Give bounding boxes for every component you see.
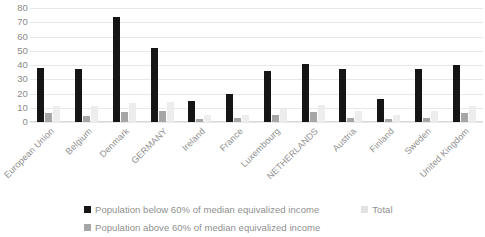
x-axis-label: France bbox=[217, 126, 244, 153]
x-axis-label: Austria bbox=[331, 126, 358, 153]
legend-swatch-light-icon bbox=[361, 206, 368, 213]
legend-swatch-dark-icon bbox=[84, 206, 91, 213]
x-label-slot: European Union bbox=[30, 124, 68, 196]
bar[interactable] bbox=[167, 102, 174, 122]
x-label-slot: GERMANY bbox=[143, 124, 181, 196]
bar[interactable] bbox=[461, 113, 468, 122]
x-axis-label: European Union bbox=[2, 126, 56, 180]
y-axis-tick-60: 60 bbox=[17, 32, 28, 42]
bar[interactable] bbox=[431, 111, 438, 122]
bar-group bbox=[181, 8, 219, 122]
bar[interactable] bbox=[310, 112, 317, 122]
bar-group bbox=[257, 8, 295, 122]
bar[interactable] bbox=[355, 111, 362, 122]
bar-group bbox=[30, 8, 68, 122]
x-axis-label: Ireland bbox=[180, 126, 207, 153]
bar-group bbox=[143, 8, 181, 122]
bar[interactable] bbox=[339, 69, 346, 122]
bar-groups bbox=[30, 8, 483, 122]
legend-item-above[interactable]: Population above 60% of median equivaliz… bbox=[84, 223, 320, 233]
bar-group bbox=[408, 8, 446, 122]
legend-row-2: Population above 60% of median equivaliz… bbox=[0, 220, 485, 235]
legend-label-above: Population above 60% of median equivaliz… bbox=[95, 223, 320, 233]
bar-chart: 80706050403020100 European UnionBelgiumD… bbox=[0, 0, 485, 237]
bar-group bbox=[294, 8, 332, 122]
y-axis-tick-80: 80 bbox=[17, 3, 28, 13]
plot-area bbox=[30, 8, 483, 122]
bar[interactable] bbox=[53, 106, 60, 122]
y-axis: 80706050403020100 bbox=[0, 0, 30, 130]
gridline bbox=[30, 122, 483, 123]
y-axis-tick-10: 10 bbox=[17, 103, 28, 113]
bar[interactable] bbox=[242, 115, 249, 122]
bar-group bbox=[68, 8, 106, 122]
y-axis-tick-0: 0 bbox=[23, 117, 28, 127]
bar-group bbox=[332, 8, 370, 122]
x-axis-label: Sweden bbox=[403, 126, 433, 156]
x-axis-label: Belgium bbox=[63, 126, 94, 157]
bar-group bbox=[445, 8, 483, 122]
x-label-slot: NETHERLANDS bbox=[294, 124, 332, 196]
bar[interactable] bbox=[113, 17, 120, 122]
bar[interactable] bbox=[204, 115, 211, 122]
y-axis-tick-40: 40 bbox=[17, 60, 28, 70]
x-label-slot: Ireland bbox=[181, 124, 219, 196]
y-axis-tick-30: 30 bbox=[17, 74, 28, 84]
bar[interactable] bbox=[385, 119, 392, 122]
bar[interactable] bbox=[393, 115, 400, 122]
legend-swatch-gray-icon bbox=[84, 224, 91, 231]
y-axis-tick-50: 50 bbox=[17, 46, 28, 56]
bar[interactable] bbox=[159, 111, 166, 122]
y-axis-tick-20: 20 bbox=[17, 89, 28, 99]
bar[interactable] bbox=[37, 68, 44, 122]
bar[interactable] bbox=[226, 94, 233, 123]
legend-label-total: Total bbox=[372, 205, 392, 215]
bar[interactable] bbox=[45, 113, 52, 122]
y-axis-tick-70: 70 bbox=[17, 17, 28, 27]
bar[interactable] bbox=[415, 69, 422, 122]
legend-item-below[interactable]: Population below 60% of median equivaliz… bbox=[84, 205, 319, 215]
bar[interactable] bbox=[264, 71, 271, 122]
bar[interactable] bbox=[121, 112, 128, 122]
bar-group bbox=[106, 8, 144, 122]
legend-item-total[interactable]: Total bbox=[361, 205, 392, 215]
bar[interactable] bbox=[347, 118, 354, 122]
bar[interactable] bbox=[272, 115, 279, 122]
bar[interactable] bbox=[188, 101, 195, 122]
bar[interactable] bbox=[83, 116, 90, 122]
x-axis-labels: European UnionBelgiumDenmarkGERMANYIrela… bbox=[30, 124, 483, 196]
bar[interactable] bbox=[280, 109, 287, 122]
x-label-slot: Belgium bbox=[68, 124, 106, 196]
bar[interactable] bbox=[129, 103, 136, 122]
x-axis-label: Finland bbox=[367, 126, 395, 154]
legend-row-1: Population below 60% of median equivaliz… bbox=[0, 202, 485, 217]
bar[interactable] bbox=[196, 119, 203, 122]
bar[interactable] bbox=[318, 105, 325, 122]
bar-group bbox=[219, 8, 257, 122]
bar[interactable] bbox=[234, 118, 241, 122]
bar[interactable] bbox=[75, 69, 82, 122]
chart-legend: Population below 60% of median equivaliz… bbox=[0, 200, 485, 237]
bar[interactable] bbox=[469, 106, 476, 122]
bar[interactable] bbox=[302, 64, 309, 122]
x-label-slot: Austria bbox=[332, 124, 370, 196]
bar[interactable] bbox=[151, 48, 158, 122]
x-label-slot: United Kingdom bbox=[445, 124, 483, 196]
bar[interactable] bbox=[377, 99, 384, 122]
bar[interactable] bbox=[91, 106, 98, 122]
bar[interactable] bbox=[423, 118, 430, 122]
bar[interactable] bbox=[453, 65, 460, 122]
x-label-slot: Finland bbox=[370, 124, 408, 196]
bar-group bbox=[370, 8, 408, 122]
legend-label-below: Population below 60% of median equivaliz… bbox=[95, 205, 319, 215]
